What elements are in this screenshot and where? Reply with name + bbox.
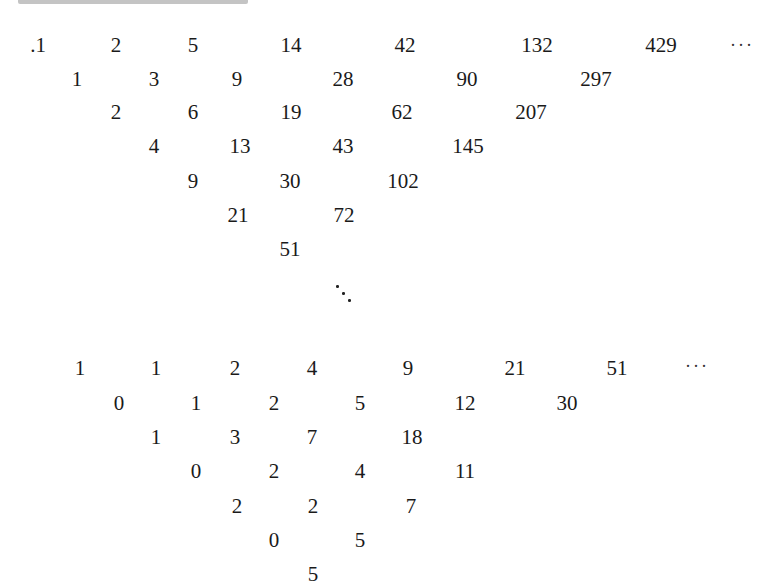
triangle-cell: 0	[269, 530, 280, 551]
row-ellipsis: ···	[685, 356, 709, 377]
triangle-cell: 0	[114, 393, 125, 414]
triangle-cell: 2	[269, 393, 280, 414]
triangle-cell: 0	[191, 461, 202, 482]
clipped-header-text	[18, 0, 248, 6]
triangle-cell: 2	[230, 358, 241, 379]
triangle-cell: 11	[455, 461, 475, 482]
triangle-cell: 18	[402, 427, 423, 448]
triangle-cell: 4	[149, 136, 160, 157]
triangle-cell: 5	[355, 393, 366, 414]
triangle-cell: 43	[333, 136, 354, 157]
triangle-cell: 51	[607, 358, 628, 379]
triangle-cell: 7	[307, 427, 318, 448]
triangle-cell: 30	[280, 171, 301, 192]
triangle-cell: 4	[307, 358, 318, 379]
triangle-cell: 2	[111, 102, 122, 123]
triangle-cell: 21	[228, 205, 249, 226]
triangle-cell: 132	[521, 35, 553, 56]
triangle-cell: 4	[355, 461, 366, 482]
triangle-cell: 2	[269, 461, 280, 482]
triangle-cell: 207	[515, 102, 547, 123]
triangle-cell: 28	[333, 69, 354, 90]
triangle-cell: 145	[452, 136, 484, 157]
triangle-cell: 9	[232, 69, 243, 90]
triangle-cell: 9	[188, 171, 199, 192]
triangle-cell: 429	[645, 35, 677, 56]
triangle-cell: 51	[280, 239, 301, 260]
triangle-cell: 2	[308, 496, 319, 517]
triangle-cell: 102	[387, 171, 419, 192]
triangle-cell: 5	[355, 530, 366, 551]
triangle-cell: 19	[281, 102, 302, 123]
triangle-cell: 14	[281, 35, 302, 56]
triangle-cell: 1	[151, 358, 162, 379]
triangle-cell: 297	[580, 69, 612, 90]
triangle-cell: 9	[403, 358, 414, 379]
triangle-cell: 13	[230, 136, 251, 157]
triangle-cell: 1	[75, 358, 86, 379]
triangle-cell: 2	[111, 35, 122, 56]
triangle-cell: 1	[151, 427, 162, 448]
triangle-cell: 30	[557, 393, 578, 414]
triangle-cell: 7	[406, 496, 417, 517]
triangle-cell: 72	[334, 205, 355, 226]
triangle-cell: 62	[392, 102, 413, 123]
diagonal-ellipsis	[336, 285, 356, 305]
triangle-cell: 3	[149, 69, 160, 90]
triangle-cell: 21	[505, 358, 526, 379]
triangle-cell: 6	[188, 102, 199, 123]
triangle-cell: 5	[308, 564, 319, 585]
triangle-cell: 1	[72, 69, 83, 90]
triangle-cell: 5	[188, 35, 199, 56]
row-ellipsis: ···	[730, 35, 754, 56]
triangle-cell: 2	[232, 496, 243, 517]
triangle-cell: 42	[395, 35, 416, 56]
triangle-cell: 12	[455, 393, 476, 414]
triangle-cell: 3	[230, 427, 241, 448]
triangle-cell: .1	[30, 35, 46, 56]
triangle-cell: 90	[457, 69, 478, 90]
triangle-cell: 1	[191, 393, 202, 414]
